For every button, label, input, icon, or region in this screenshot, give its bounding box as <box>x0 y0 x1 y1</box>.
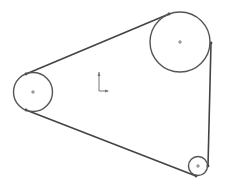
background <box>0 0 225 189</box>
sketch-canvas <box>0 0 225 189</box>
